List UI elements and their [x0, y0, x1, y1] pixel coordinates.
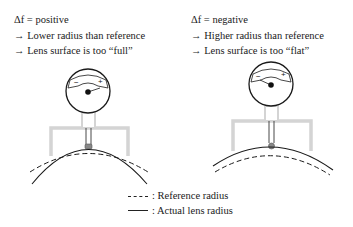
left-gauge-minus: −: [74, 78, 79, 87]
legend-item-actual: : Actual lens radius: [128, 204, 233, 219]
left-contact-tip: [85, 144, 92, 149]
left-stem: [82, 112, 95, 128]
legend-label-reference: : Reference radius: [152, 189, 228, 204]
solid-line-swatch: [128, 210, 148, 211]
right-reference-curve: [215, 156, 330, 175]
dashed-line-swatch: [128, 196, 148, 197]
left-reference-curve: [30, 154, 148, 173]
right-gauge-plus: +: [281, 70, 286, 79]
legend-item-reference: : Reference radius: [128, 189, 233, 204]
right-contact-tip: [269, 143, 275, 149]
right-spherometer: − +: [213, 62, 333, 175]
left-gauge-plus: +: [98, 77, 103, 86]
left-spherometer: − +: [30, 69, 148, 184]
legend-label-actual: : Actual lens radius: [152, 204, 233, 219]
legend: : Reference radius : Actual lens radius: [128, 189, 233, 218]
right-stem: [265, 106, 278, 121]
right-gauge-minus: −: [256, 72, 261, 81]
left-frame: [51, 128, 128, 156]
